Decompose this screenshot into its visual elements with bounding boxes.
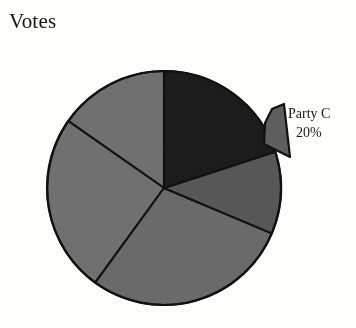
pie-chart [0, 0, 356, 328]
callout-label-party: Party C [288, 105, 330, 122]
callout-label-percent: 20% [296, 124, 322, 141]
chart-page: Votes Party C 20% [0, 0, 356, 328]
